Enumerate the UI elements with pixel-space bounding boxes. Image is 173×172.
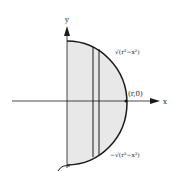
diagram-canvas: y x (r,0) √(r²−x²) −√(r²−x²) [0, 0, 173, 172]
point-r0-marker [125, 100, 128, 103]
y-axis-label: y [64, 16, 69, 24]
point-label: (r,0) [128, 90, 143, 98]
bottom-curl-mark [58, 166, 70, 171]
bottom-curve-label: −√(r²−x²) [110, 151, 140, 158]
y-axis-arrow-icon [64, 26, 70, 36]
semicircle-region [67, 41, 127, 165]
top-curve-label: √(r²−x²) [115, 48, 140, 55]
x-axis-label: x [163, 98, 167, 106]
x-axis-arrow-icon [150, 98, 160, 104]
